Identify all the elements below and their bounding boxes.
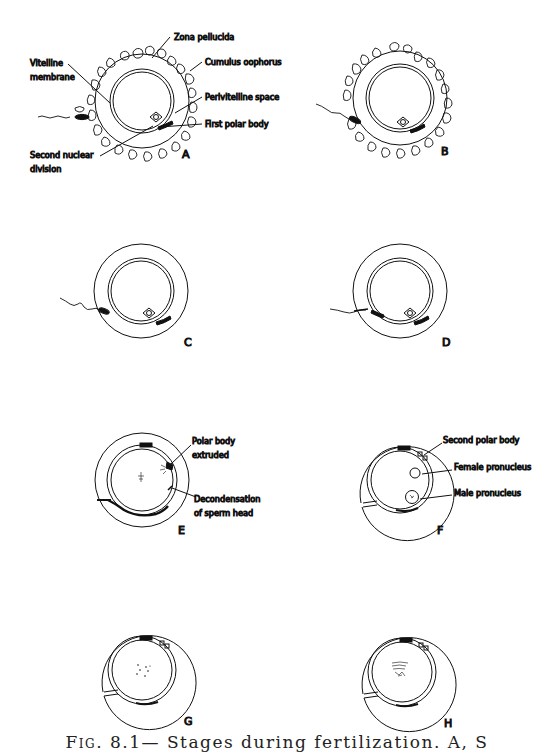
- zona-pellucida-outer: [102, 636, 196, 730]
- vitelline-membrane-outer: [108, 636, 176, 704]
- label-cumulus-oophorus: Cumulus oophorus: [205, 57, 282, 67]
- figure-caption: Fig. 8.1— Stages during fertilization. A…: [0, 732, 554, 752]
- first-polar-body-icon: [414, 316, 429, 325]
- fusion-membrane-band: [108, 500, 168, 515]
- cortical-granule-band: [400, 638, 412, 642]
- zona-pellucida-outer: [362, 638, 456, 732]
- fertilization-slit: [364, 692, 378, 698]
- figure-caption-text: Stages during fertilization. A, S: [167, 732, 489, 752]
- meiotic-spindle-icon: [150, 112, 162, 122]
- label-zona-pellucida: Zona pellucida: [174, 32, 234, 42]
- vitelline-membrane-inner: [111, 261, 171, 321]
- label-second-polar-body: Second polar body: [443, 435, 520, 445]
- panel-label-f: F: [437, 524, 443, 537]
- panel-h: [362, 638, 456, 732]
- cortical-granule-band: [140, 443, 152, 447]
- vitelline-membrane-outer: [110, 69, 174, 133]
- first-polar-body-icon: [156, 316, 171, 325]
- label-second-nuclear: Second nuclear: [30, 150, 94, 160]
- panel-label-a: A: [182, 148, 190, 161]
- chromosomes-icon: [136, 664, 150, 677]
- label-membrane: membrane: [30, 72, 75, 82]
- vitelline-membrane-inner: [112, 640, 172, 700]
- sperm-head-icon: [75, 114, 89, 119]
- zona-pellucida-outer: [353, 51, 447, 145]
- panel-c: [60, 244, 188, 338]
- vitelline-membrane-inner: [111, 449, 173, 511]
- zona-pellucida-outer: [95, 54, 189, 148]
- cortical-granule-band: [140, 636, 152, 640]
- fertilization-slit: [104, 690, 118, 696]
- label-division: division: [30, 164, 61, 174]
- panel-label-e: E: [178, 524, 185, 537]
- chromosome-spindle-icon: [138, 472, 144, 481]
- panel-label-h: H: [444, 717, 452, 730]
- label-first-polar-body: First polar body: [205, 119, 269, 129]
- sperm-tail-icon: [60, 298, 100, 310]
- cortical-granule-band: [398, 446, 410, 450]
- female-pronucleus-icon: [410, 468, 420, 478]
- label-extruded: extruded: [192, 450, 229, 460]
- label-perivitelline-space: Perivitelline space: [205, 92, 279, 102]
- panel-g: [102, 636, 196, 730]
- sperm-head-icon: [348, 115, 361, 125]
- sperm-tail-icon: [38, 116, 70, 118]
- meiotic-spindle-icon: [404, 308, 416, 318]
- vitelline-membrane-inner: [113, 72, 171, 130]
- metaphase-spindle-icon: [392, 662, 408, 676]
- vitelline-membrane-outer: [108, 258, 174, 324]
- meiotic-spindle-icon: [397, 117, 409, 127]
- panel-b: [316, 43, 452, 159]
- first-polar-body-icon: [410, 124, 425, 133]
- panel-d: [330, 244, 447, 338]
- vitelline-membrane-inner: [370, 261, 430, 321]
- figure-number: Fig. 8.1—: [66, 732, 160, 752]
- panel-label-g: G: [184, 715, 193, 728]
- panel-a: [38, 37, 202, 161]
- vitelline-membrane-inner: [371, 451, 429, 509]
- label-male-pronucleus: Male pronucleus: [454, 488, 521, 498]
- label-polar-body: Polar body: [192, 436, 235, 446]
- label-vitelline: Vitelline: [30, 58, 63, 68]
- meiotic-spindle-icon: [143, 308, 155, 318]
- cumulus-cells-icon: [75, 46, 197, 161]
- panel-label-b: B: [441, 145, 449, 158]
- sperm-penetration-path: [354, 309, 368, 311]
- panel-e: [95, 433, 196, 527]
- label-of-sperm-head: of sperm head: [194, 508, 253, 518]
- label-decondensation: Decondensation: [194, 494, 260, 504]
- vitelline-membrane-outer: [366, 64, 434, 132]
- cumulus-cells-icon: [343, 43, 452, 159]
- panel-label-c: C: [184, 336, 192, 349]
- sperm-tail-icon: [316, 104, 352, 120]
- panel-label-d: D: [442, 336, 450, 349]
- label-female-pronucleus: Female pronucleus: [454, 462, 531, 472]
